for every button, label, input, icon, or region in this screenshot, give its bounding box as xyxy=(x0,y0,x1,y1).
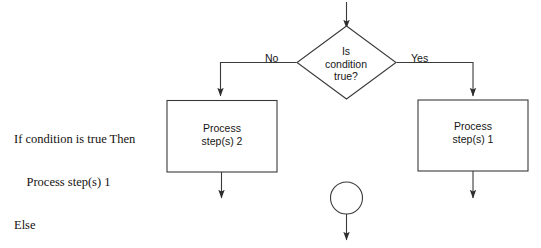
edge-label-no: No xyxy=(265,52,278,64)
edge-label-yes: Yes xyxy=(411,52,428,64)
edge-yes-branch xyxy=(397,63,474,97)
merge-circle-shape xyxy=(331,182,363,214)
pseudocode-line: Else xyxy=(14,218,135,232)
pseudocode-line: If condition is true Then xyxy=(14,132,135,146)
pseudocode-line: Process step(s) 1 xyxy=(14,175,135,189)
process-left-node-label: Process step(s) 2 xyxy=(167,122,277,147)
decision-node-label: Is condition true? xyxy=(297,45,395,83)
pseudocode-block: If condition is true Then Process step(s… xyxy=(14,104,135,248)
edge-no-branch xyxy=(221,63,297,97)
process-right-node-label: Process step(s) 1 xyxy=(418,120,528,145)
